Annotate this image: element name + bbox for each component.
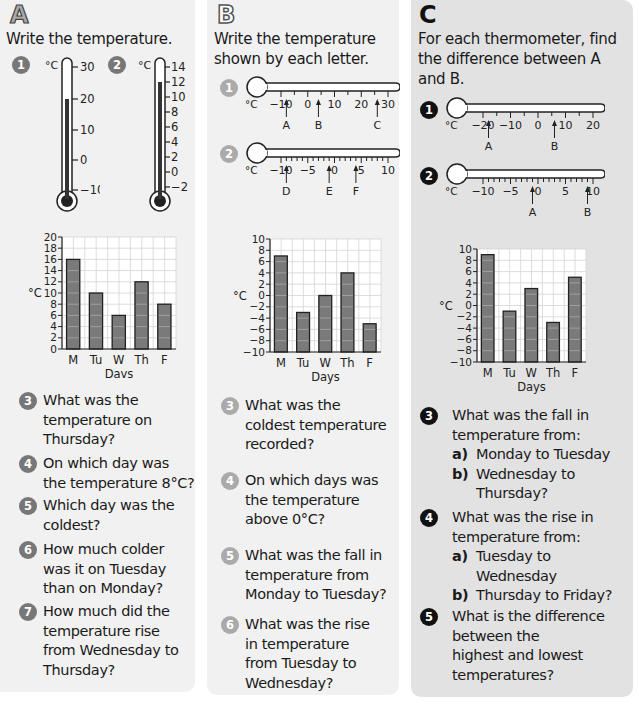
bar-chart-b: −10−8−6−4−20246810°CMTuWThFDays xyxy=(207,230,399,390)
svg-text:4: 4 xyxy=(171,135,178,149)
bar xyxy=(503,311,516,362)
svg-text:−10: −10 xyxy=(80,183,100,197)
question-text: What was the rise intemperature from:a)T… xyxy=(452,508,612,606)
question-badge: 2 xyxy=(420,167,438,185)
svg-text:10: 10 xyxy=(80,123,95,137)
marker-label: B xyxy=(315,119,323,132)
tick-label: 10 xyxy=(381,164,395,177)
question-badge: 3 xyxy=(19,392,37,410)
unit-label: °C xyxy=(45,59,59,72)
svg-text:−2: −2 xyxy=(457,310,472,322)
unit-label: °C xyxy=(445,185,458,197)
svg-text:12: 12 xyxy=(171,75,186,89)
question-text: Which day was thecoldest? xyxy=(43,496,174,535)
svg-text:16: 16 xyxy=(44,253,58,265)
question-text: What was the fall intemperature fromMond… xyxy=(245,546,386,605)
svg-text:0: 0 xyxy=(465,299,472,311)
question-badge: 4 xyxy=(19,455,37,473)
question-part: b)Thursday to Friday? xyxy=(452,586,612,606)
bar-chart-a: 02468101214161820°CMTuWThFDays xyxy=(0,228,195,378)
svg-text:4: 4 xyxy=(258,267,265,279)
svg-text:0: 0 xyxy=(80,153,87,167)
svg-text:−6: −6 xyxy=(250,323,266,335)
x-axis-label: Days xyxy=(311,370,340,384)
svg-text:12: 12 xyxy=(44,275,57,287)
svg-text:8: 8 xyxy=(171,105,178,119)
question-part: a)Tuesday toWednesday xyxy=(452,547,612,586)
tick-label: −10 xyxy=(499,119,522,132)
section-c-instruction: For each thermometer, find the differenc… xyxy=(418,29,617,89)
question-text: How much colderwas it on Tuesdaythan on … xyxy=(43,540,166,599)
question-text: How much did thetemperature risefrom Wed… xyxy=(43,602,179,680)
tick-label: 0 xyxy=(331,164,338,177)
x-tick-label: F xyxy=(161,353,168,367)
svg-text:8: 8 xyxy=(465,254,472,266)
bar-chart-c: −10−8−6−4−20246810°CMTuWThFDays xyxy=(411,240,633,400)
y-axis-label: °C xyxy=(233,289,247,303)
svg-text:4: 4 xyxy=(465,277,472,289)
tick-label: 5 xyxy=(562,185,569,198)
unit-label: °C xyxy=(445,119,458,131)
svg-text:2: 2 xyxy=(50,331,57,343)
svg-text:−8: −8 xyxy=(457,344,472,356)
question-badge: 1 xyxy=(420,101,438,119)
thermometer-c2-horizontal: °C−10−50510AB xyxy=(445,163,605,221)
section-c-panel: C For each thermometer, find the differe… xyxy=(411,0,633,697)
svg-text:−8: −8 xyxy=(250,334,265,346)
tick-label: 0 xyxy=(535,119,542,132)
tick-label: 30 xyxy=(381,98,395,111)
x-tick-label: W xyxy=(113,353,124,367)
question-part: b)Wednesday toThursday? xyxy=(452,465,610,504)
svg-text:6: 6 xyxy=(465,265,472,277)
marker-label: C xyxy=(373,119,381,132)
arrow-up-icon xyxy=(552,120,557,126)
svg-text:14: 14 xyxy=(44,264,58,276)
thermometer-1-vertical: °C 30 20 10 0 −10 xyxy=(40,55,100,215)
tick-label: 0 xyxy=(535,185,542,198)
unit-label: °C xyxy=(245,164,258,176)
question-badge: 3 xyxy=(221,397,239,415)
svg-text:−2: −2 xyxy=(171,180,188,194)
svg-text:20: 20 xyxy=(80,92,95,106)
section-a-letter: A xyxy=(10,3,29,27)
marker-label: B xyxy=(584,206,592,219)
tick-label: −5 xyxy=(300,164,316,177)
x-tick-label: Tu xyxy=(502,366,516,380)
svg-text:0: 0 xyxy=(258,289,265,301)
question-badge: 4 xyxy=(420,509,438,527)
thermometer-2-vertical: °C 14 12 10 8 6 4 2 0 −2 xyxy=(134,55,194,215)
unit-label: °C xyxy=(245,98,258,110)
marker-label: A xyxy=(529,206,537,219)
question-badge: 2 xyxy=(220,145,238,163)
bar xyxy=(319,296,332,353)
tick-label: −10 xyxy=(471,185,494,198)
svg-text:6: 6 xyxy=(50,309,57,321)
tick-label: 5 xyxy=(358,164,365,177)
question-badge: 6 xyxy=(221,616,239,634)
marker-label: B xyxy=(551,140,559,153)
question-text: What was the fall intemperature from:a)M… xyxy=(452,406,610,504)
svg-text:10: 10 xyxy=(171,90,186,104)
question-part: a)Monday to Tuesday xyxy=(452,445,610,465)
section-b-panel: B Write the temperature shown by each le… xyxy=(207,0,399,695)
svg-text:−6: −6 xyxy=(457,333,473,345)
svg-text:−4: −4 xyxy=(250,312,266,324)
section-b-letter: B xyxy=(217,3,235,27)
svg-text:0: 0 xyxy=(50,343,57,355)
svg-text:14: 14 xyxy=(171,60,186,74)
y-axis-label: °C xyxy=(439,299,453,313)
marker-label: A xyxy=(283,119,291,132)
svg-text:2: 2 xyxy=(465,288,472,300)
question-text: On which days wasthe temperatureabove 0°… xyxy=(245,471,378,530)
svg-text:2: 2 xyxy=(171,150,178,164)
question-badge: 1 xyxy=(220,79,238,97)
question-badge: 3 xyxy=(420,407,438,425)
tick-label: 20 xyxy=(354,98,368,111)
question-text: What was the risein temperaturefrom Tues… xyxy=(245,615,370,693)
svg-text:−4: −4 xyxy=(457,322,473,334)
tick-label: −20 xyxy=(471,119,494,132)
bar xyxy=(89,293,102,349)
thermometer-c1-horizontal: °C−20−1001020AB xyxy=(445,97,605,155)
marker-label: A xyxy=(485,140,493,153)
section-a-instruction: Write the temperature. xyxy=(6,29,172,49)
